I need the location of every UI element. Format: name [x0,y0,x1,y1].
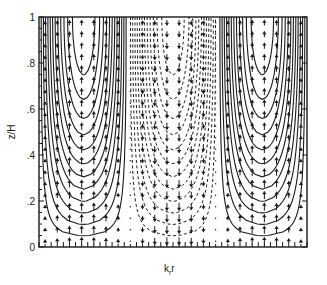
arrow-head-icon [116,90,120,93]
arrow-head-icon [104,181,108,184]
vector-dot [130,91,131,92]
arrow-head-icon [250,226,254,229]
arrow-head-icon [250,89,254,92]
arrow-head-icon [79,180,83,183]
arrow-head-icon [153,80,157,83]
arrow-head-icon [201,68,205,71]
arrow-head-icon [299,217,303,220]
arrow-head-icon [67,89,71,92]
arrow-head-icon [116,182,120,185]
arrow-head-icon [226,101,230,104]
x-axis-label: krr [164,263,175,276]
dashed-contour [147,17,199,150]
arrow-head-icon [238,123,242,126]
arrow-head-icon [79,168,83,171]
arrow-head-icon [43,228,47,231]
arrow-head-icon [140,206,144,209]
arrow-head-icon [140,91,144,94]
arrow-head-icon [153,126,157,129]
arrow-head-icon [189,46,193,49]
arrow-head-icon [250,123,254,126]
arrow-head-icon [153,46,157,49]
arrow-head-icon [140,172,144,175]
arrow-head-icon [79,191,83,194]
arrow-head-icon [226,193,230,196]
arrow-head-icon [274,157,278,160]
arrow-head-icon [299,182,303,185]
arrow-head-icon [92,226,96,229]
arrow-head-icon [226,147,230,150]
arrow-head-icon [92,214,96,217]
arrow-head-icon [287,170,291,173]
arrow-head-icon [189,207,193,210]
arrow-head-icon [92,89,96,92]
arrow-head-icon [104,43,108,46]
dashed-contour [153,17,192,119]
arrow-head-icon [299,125,303,128]
arrow-head-icon [153,57,157,60]
vector-dot [130,206,131,207]
arrow-head-icon [262,157,266,160]
dashed-contour [145,17,202,164]
arrow-head-icon [287,227,291,230]
arrow-head-icon [177,81,181,84]
arrow-head-icon [43,217,47,220]
arrow-head-icon [104,20,108,23]
arrow-head-icon [140,137,144,140]
arrow-head-icon [201,172,205,175]
arrow-head-icon [79,214,83,217]
arrow-head-icon [287,147,291,150]
vector-dot [215,103,216,104]
arrow-head-icon [165,173,169,176]
arrow-head-icon [67,226,71,229]
arrow-head-icon [287,238,291,241]
vector-dot [130,103,131,104]
arrow-head-icon [226,136,230,139]
arrow-head-icon [79,88,83,91]
arrow-head-icon [299,194,303,197]
solid-contour [237,17,289,150]
arrow-head-icon [104,55,108,58]
vector-dot [130,45,131,46]
arrow-head-icon [165,150,169,153]
arrow-head-icon [67,123,71,126]
vector-dot [130,149,131,150]
vector-dot [130,22,131,23]
vector-dot [130,195,131,196]
arrow-head-icon [262,168,266,171]
arrow-head-icon [262,111,266,114]
arrow-head-icon [201,206,205,209]
vector-dot [215,218,216,219]
arrow-head-icon [67,203,71,206]
arrow-head-icon [165,231,169,234]
arrow-head-icon [238,32,242,35]
arrow-head-icon [79,157,83,160]
arrow-head-icon [140,229,144,232]
arrow-head-icon [177,219,181,222]
arrow-head-icon [67,238,71,241]
arrow-head-icon [92,31,96,34]
arrow-head-icon [238,20,242,23]
arrow-head-icon [287,112,291,115]
arrow-head-icon [201,149,205,152]
arrow-head-icon [79,66,83,69]
arrow-head-icon [189,173,193,176]
vector-dot [130,218,131,219]
arrow-head-icon [55,215,59,218]
arrow-head-icon [177,23,181,26]
arrow-head-icon [165,57,169,60]
arrow-head-icon [79,20,83,23]
arrow-head-icon [177,231,181,234]
arrow-head-icon [262,100,266,103]
arrow-head-icon [104,123,108,126]
arrow-head-icon [250,31,254,34]
arrow-head-icon [140,103,144,106]
vector-dot [130,229,131,230]
arrow-head-icon [201,103,205,106]
vector-dot [130,114,131,115]
arrow-head-icon [262,123,266,126]
arrow-head-icon [43,194,47,197]
arrow-head-icon [153,138,157,141]
arrow-head-icon [79,226,83,229]
arrow-head-icon [92,192,96,195]
